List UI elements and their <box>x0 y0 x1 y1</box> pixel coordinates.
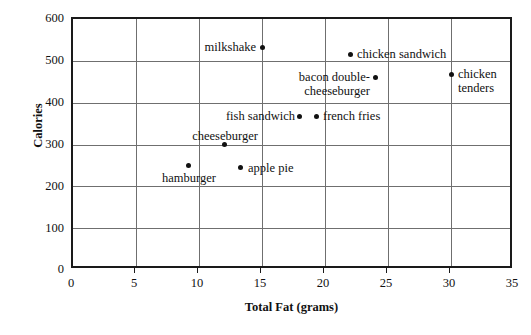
data-point-fish-sandwich[interactable] <box>297 114 302 119</box>
data-label-chicken-tenders-line1: chicken <box>458 67 531 81</box>
x-axis-title: Total Fat (grams) <box>71 300 512 315</box>
x-tick-mark-30 <box>449 268 450 273</box>
x-tick-label-0: 0 <box>51 277 91 289</box>
gridline-y-400 <box>73 103 510 104</box>
data-label-bacon-double-line1: bacon double- <box>243 70 370 84</box>
y-tick-label-100: 100 <box>14 222 64 234</box>
gridline-y-200 <box>73 186 510 187</box>
data-label-chicken-sandwich: chicken sandwich <box>357 47 517 61</box>
data-point-chicken-tenders[interactable] <box>449 72 454 77</box>
data-point-milkshake[interactable] <box>260 45 265 50</box>
data-point-french-fries[interactable] <box>314 114 319 119</box>
plot-area: milkshake chicken sandwich bacon double-… <box>71 17 512 268</box>
x-tick-mark-20 <box>323 268 324 273</box>
data-label-french-fries: french fries <box>323 109 433 123</box>
scatter-chart: Calories 600 500 400 300 200 100 0 0 5 1… <box>0 0 531 335</box>
y-tick-label-0: 0 <box>14 263 64 275</box>
x-tick-mark-25 <box>386 268 387 273</box>
gridline-y-100 <box>73 228 510 229</box>
gridline-x-20 <box>325 19 326 266</box>
data-label-apple-pie: apple pie <box>248 161 348 175</box>
x-tick-label-20: 20 <box>303 277 343 289</box>
data-point-bacon-double-cheeseburger[interactable] <box>373 75 378 80</box>
gridline-y-300 <box>73 145 510 146</box>
data-point-chicken-sandwich[interactable] <box>348 52 353 57</box>
y-tick-label-400: 400 <box>14 96 64 108</box>
data-label-hamburger: hamburger <box>141 171 237 185</box>
gridline-x-5 <box>136 19 137 266</box>
data-label-bacon-double-line2: cheeseburger <box>243 84 370 98</box>
y-axis-title: Calories <box>31 66 46 186</box>
data-label-cheeseburger: cheeseburger <box>169 129 281 143</box>
x-tick-label-10: 10 <box>177 277 217 289</box>
x-tick-mark-5 <box>134 268 135 273</box>
x-tick-mark-15 <box>260 268 261 273</box>
data-label-chicken-tenders-line2: tenders <box>458 81 531 95</box>
y-tick-label-300: 300 <box>14 138 64 150</box>
data-point-apple-pie[interactable] <box>238 165 243 170</box>
y-tick-label-600: 600 <box>14 12 64 24</box>
x-tick-label-25: 25 <box>366 277 406 289</box>
data-label-fish-sandwich: fish sandwich <box>183 109 295 123</box>
x-tick-label-35: 35 <box>492 277 531 289</box>
x-tick-label-15: 15 <box>240 277 280 289</box>
x-tick-label-30: 30 <box>429 277 469 289</box>
x-tick-mark-10 <box>197 268 198 273</box>
y-tick-label-200: 200 <box>14 180 64 192</box>
data-point-hamburger[interactable] <box>186 163 191 168</box>
x-tick-label-5: 5 <box>114 277 154 289</box>
y-tick-label-500: 500 <box>14 54 64 66</box>
data-label-milkshake: milkshake <box>132 40 256 54</box>
